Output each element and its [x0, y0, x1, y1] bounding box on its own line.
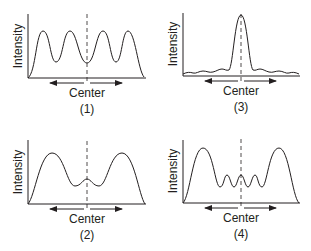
x-axis-label: Center: [69, 212, 105, 226]
panel-1: Intensity Center (1): [11, 14, 146, 116]
y-axis-label: Intensity: [166, 22, 180, 67]
panel-label: (3): [234, 100, 249, 114]
panel-label: (4): [234, 227, 249, 241]
intensity-curve: [28, 31, 144, 78]
panel-3: Intensity Center (3): [166, 13, 300, 114]
x-axis-label: Center: [69, 86, 105, 100]
interference-patterns-figure: Intensity Center (1) Intensity Center (3…: [0, 0, 311, 251]
panel-2: Intensity Center (2): [11, 140, 146, 242]
panel-label: (1): [80, 102, 95, 116]
intensity-curve: [28, 153, 145, 204]
panel-label: (2): [80, 228, 95, 242]
y-axis-label: Intensity: [166, 149, 180, 194]
x-axis-label: Center: [223, 211, 259, 225]
x-axis-label: Center: [223, 84, 259, 98]
y-axis-label: Intensity: [11, 24, 25, 69]
y-axis-label: Intensity: [11, 150, 25, 195]
panel-4: Intensity Center (4): [166, 139, 300, 241]
